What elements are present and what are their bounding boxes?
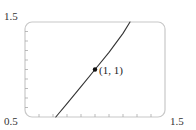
axis-ticks [25, 32, 151, 118]
y-max-tick-label: 1.5 [4, 10, 18, 22]
point-annotation-label: (1, 1) [99, 64, 123, 77]
point-marker [93, 67, 97, 71]
highlight-point [93, 67, 97, 71]
chart: 1.5 0.5 1.5 (1, 1) [0, 0, 196, 130]
x-max-tick-label: 1.5 [170, 115, 184, 127]
x-min-tick-label: 0.5 [4, 115, 18, 127]
